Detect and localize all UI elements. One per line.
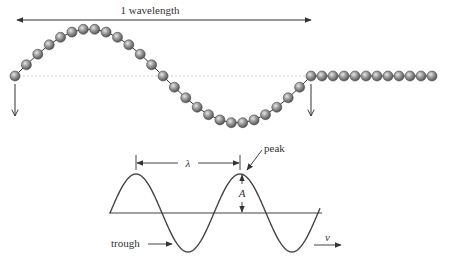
bead xyxy=(283,93,293,103)
bead xyxy=(33,49,43,59)
sine-wave-diagram: λ A peak trough v xyxy=(109,142,341,252)
bead xyxy=(147,60,157,70)
bead xyxy=(249,115,259,125)
bead xyxy=(181,93,191,103)
wavelength-dimension: 1 wavelength xyxy=(17,4,311,20)
amplitude-label: A xyxy=(238,187,246,199)
bead xyxy=(405,71,415,81)
bead xyxy=(158,71,168,81)
bead xyxy=(78,24,88,34)
bead xyxy=(295,82,305,92)
bead xyxy=(238,118,248,128)
bead xyxy=(328,71,338,81)
bead xyxy=(21,60,31,70)
bead xyxy=(317,71,327,81)
bead xyxy=(339,71,349,81)
bead xyxy=(67,27,77,37)
peak-pointer xyxy=(247,150,262,170)
wavelength-label: 1 wavelength xyxy=(121,4,180,16)
lambda-label: λ xyxy=(185,157,191,169)
trough-label: trough xyxy=(111,237,140,249)
bead xyxy=(90,24,100,34)
bead xyxy=(361,71,371,81)
bead xyxy=(169,82,179,92)
bead xyxy=(372,71,382,81)
bead xyxy=(10,71,20,81)
bead xyxy=(350,71,360,81)
bead xyxy=(113,32,123,42)
bead xyxy=(394,71,404,81)
bead xyxy=(383,71,393,81)
bead xyxy=(44,40,54,50)
bead xyxy=(215,115,225,125)
bead xyxy=(272,102,282,112)
bead xyxy=(226,118,236,128)
peak-label: peak xyxy=(264,142,285,154)
bead xyxy=(101,27,111,37)
bead xyxy=(135,49,145,59)
bead xyxy=(427,71,437,81)
bead xyxy=(204,110,214,120)
bead xyxy=(416,71,426,81)
bead xyxy=(261,110,271,120)
wave-diagram: 1 wavelength λ A peak trough v xyxy=(0,0,449,270)
bead xyxy=(306,71,316,81)
bead xyxy=(124,40,134,50)
bead xyxy=(56,32,66,42)
velocity-label: v xyxy=(325,231,330,243)
bead xyxy=(192,102,202,112)
